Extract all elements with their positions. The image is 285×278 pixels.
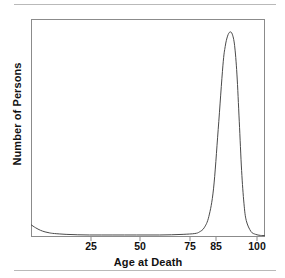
- distribution-curve: [31, 19, 265, 237]
- bottom-divider-rule: [14, 270, 276, 271]
- figure-container: Number of Persons Age at Death 25 50 75 …: [0, 0, 285, 278]
- curve-path: [31, 32, 265, 236]
- x-tick-label-75: 75: [184, 240, 196, 252]
- top-divider-rule: [14, 4, 276, 5]
- x-tick-label-25: 25: [85, 240, 97, 252]
- x-axis-title: Age at Death: [31, 256, 265, 268]
- x-tick-label-50: 50: [134, 240, 146, 252]
- y-axis-title: Number of Persons: [11, 49, 23, 179]
- x-axis-tick-marks: [31, 237, 265, 243]
- x-tick-label-100: 100: [248, 240, 266, 252]
- x-tick-label-85: 85: [210, 240, 222, 252]
